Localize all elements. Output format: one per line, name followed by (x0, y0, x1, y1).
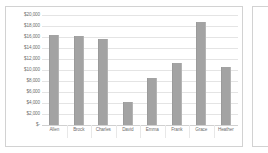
y-axis-tick-label: $4,000 (27, 101, 40, 106)
x-axis-tick-label: Heather (214, 128, 239, 133)
x-axis-tick-label: David (116, 128, 141, 133)
adjacent-object-border-fragment (252, 6, 268, 147)
bar[interactable] (172, 63, 182, 125)
y-axis-tick-label: $14,000 (24, 46, 40, 51)
bar[interactable] (98, 39, 108, 125)
y-axis-tick-label: $- (36, 123, 40, 128)
x-axis-tick-label: Emma (140, 128, 165, 133)
y-axis-tick-label: $8,000 (27, 79, 40, 84)
chart-plot-wrapper: $20,000$18,000$16,000$14,000$12,000$10,0… (6, 7, 242, 146)
bar-chart-area[interactable]: $20,000$18,000$16,000$14,000$12,000$10,0… (5, 6, 243, 147)
x-axis-tick-label: Brock (67, 128, 92, 133)
y-axis-tick-label: $10,000 (24, 68, 40, 73)
y-axis-tick-label: $20,000 (24, 13, 40, 18)
bar[interactable] (147, 78, 157, 125)
x-axis[interactable]: AllenBrockCharlesDavidEmmaFrankGraceHeat… (42, 128, 238, 140)
y-axis-tick-label: $16,000 (24, 35, 40, 40)
bar-series[interactable] (42, 15, 238, 125)
bar[interactable] (74, 36, 84, 125)
bar[interactable] (221, 67, 231, 125)
y-axis-tick-label: $12,000 (24, 57, 40, 62)
y-axis[interactable]: $20,000$18,000$16,000$14,000$12,000$10,0… (8, 15, 40, 125)
x-axis-tick-label: Charles (91, 128, 116, 133)
bar[interactable] (196, 22, 206, 125)
bar[interactable] (123, 102, 133, 125)
x-axis-tick-label: Frank (165, 128, 190, 133)
y-axis-tick-label: $18,000 (24, 24, 40, 29)
y-axis-tick-label: $6,000 (27, 90, 40, 95)
bar[interactable] (49, 35, 59, 125)
x-axis-tick-label: Grace (189, 128, 214, 133)
y-axis-tick-label: $2,000 (27, 112, 40, 117)
x-axis-tick-label: Allen (42, 128, 67, 133)
plot-area (42, 15, 238, 125)
